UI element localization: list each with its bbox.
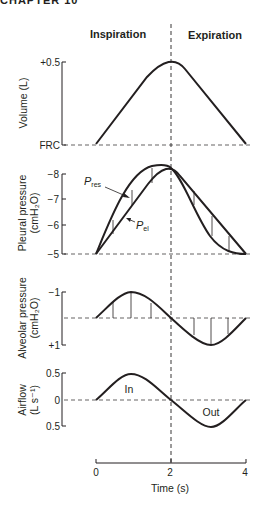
airflow-y-label-line2: (L s⁻¹) [28, 385, 40, 415]
volume-tick-max: +0.5 [40, 57, 60, 68]
pleural-y-label-line1: Pleural pressure [16, 175, 28, 252]
airflow-panel: 0.5 0 0.5 Airflow (L s⁻¹) In Out [16, 368, 250, 432]
pleural-tick-minus6: −6 [48, 220, 60, 231]
volume-panel: +0.5 FRC Volume (L) [17, 57, 250, 151]
alveolar-hatching [113, 293, 228, 345]
time-tick-4: 4 [242, 467, 248, 478]
pleural-panel: −8 −7 −6 −5 Pleural pressure (cmH₂O) Pre… [16, 165, 250, 260]
expiration-header: Expiration [188, 29, 242, 41]
respiratory-cycle-figure: Inspiration Expiration +0.5 FRC Volume (… [0, 0, 262, 507]
time-axis: 0 2 4 Time (s) [93, 459, 248, 494]
time-axis-label: Time (s) [151, 482, 189, 494]
volume-y-label: Volume (L) [17, 78, 29, 129]
airflow-tick-zero: 0 [54, 395, 60, 406]
pleural-y-label-line2: (cmH₂O) [28, 193, 40, 234]
alveolar-y-label-line1: Alveolar pressure [16, 277, 28, 359]
p-el-arrowhead [126, 218, 131, 222]
airflow-out-label: Out [203, 406, 220, 418]
p-res-arrowhead [123, 193, 130, 198]
pleural-tick-minus7: −7 [48, 194, 60, 205]
alveolar-y-label-line2: (cmH₂O) [28, 298, 40, 339]
airflow-in-label: In [125, 383, 134, 395]
airflow-y-label-line1: Airflow [16, 384, 28, 416]
p-res-label: Pres [84, 175, 102, 188]
pleural-tick-minus8: −8 [48, 169, 60, 180]
alveolar-tick-plus1: +1 [49, 340, 61, 351]
inspiration-header: Inspiration [90, 28, 147, 40]
time-tick-2: 2 [167, 467, 173, 478]
airflow-tick-bottom: 0.5 [46, 421, 60, 432]
time-tick-0: 0 [93, 467, 99, 478]
alveolar-panel: −1 +1 Alveolar pressure (cmH₂O) [16, 277, 250, 359]
p-el-label: Pel [136, 219, 149, 232]
airflow-tick-top: 0.5 [46, 368, 60, 379]
pleural-tick-minus5: −5 [48, 249, 60, 260]
alveolar-tick-minus1: −1 [49, 287, 61, 298]
volume-tick-frc: FRC [39, 140, 60, 151]
